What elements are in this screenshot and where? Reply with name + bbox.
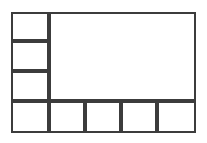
footer-cell-5[interactable] [157,101,196,133]
sidebar-cell-3[interactable] [11,71,49,101]
footer-cell-2[interactable] [49,101,85,133]
main-content-panel[interactable] [49,12,196,101]
footer-cell-1[interactable] [11,101,49,133]
sidebar-cell-1[interactable] [11,12,49,41]
wireframe-canvas [0,0,207,143]
footer-cell-3[interactable] [85,101,121,133]
sidebar-cell-2[interactable] [11,41,49,71]
footer-cell-4[interactable] [121,101,157,133]
